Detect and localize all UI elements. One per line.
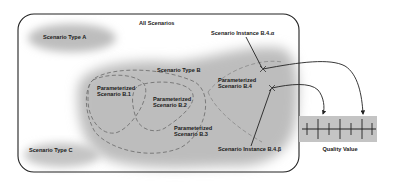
quality-scale bbox=[299, 116, 377, 142]
all-scenarios-label: All Scenarios bbox=[139, 20, 174, 26]
quality-value-label: Quality Value bbox=[320, 146, 360, 152]
scenario-type-b-label: Scenario Type B bbox=[157, 67, 200, 73]
scenario-type-a-label: Scenario Type A bbox=[43, 34, 86, 40]
param-scenario-b3-label: Parameterized Scenario B.3 bbox=[174, 125, 212, 138]
scenario-type-c-label: Scenario Type C bbox=[29, 147, 72, 153]
param-scenario-b2-label: Parameterized Scenario B.2 bbox=[153, 96, 191, 109]
instance-beta-label: Scenario Instance B.4.β bbox=[218, 146, 281, 152]
diagram-svg bbox=[0, 0, 393, 185]
instance-alpha-label: Scenario Instance B.4.α bbox=[211, 30, 274, 36]
param-scenario-b4-label: Parameterized Scenario B.4 bbox=[218, 77, 256, 90]
param-scenario-b1-label: Parameterized Scenario B.1 bbox=[97, 85, 135, 98]
scenario-diagram: All Scenarios Scenario Type A Scenario T… bbox=[0, 0, 393, 185]
